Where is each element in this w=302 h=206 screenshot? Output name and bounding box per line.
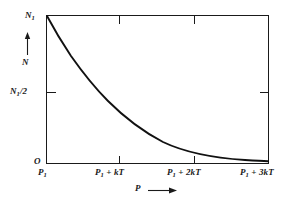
decay-curve	[47, 16, 268, 161]
x-label-p1-plus-3kt: P1 + 3kT	[240, 168, 274, 177]
y-label-n1: N1	[25, 11, 35, 20]
y-label-origin: O	[34, 157, 41, 166]
y-axis-arrow-head	[25, 32, 30, 39]
x-axis-title: P	[135, 184, 141, 193]
x-label-p1: P1	[38, 168, 47, 177]
figure-container: N1 N1/2 O N P1 P1 + kT P1 + 2kT P1 + 3kT…	[0, 0, 302, 206]
x-label-p1-plus-kt: P1 + kT	[95, 168, 124, 177]
plot-frame	[47, 16, 269, 164]
x-axis-arrow-head	[169, 188, 177, 194]
y-label-n1-half: N1/2	[10, 87, 27, 96]
y-axis-title: N	[22, 58, 29, 67]
x-label-p1-plus-2kt: P1 + 2kT	[167, 168, 201, 177]
